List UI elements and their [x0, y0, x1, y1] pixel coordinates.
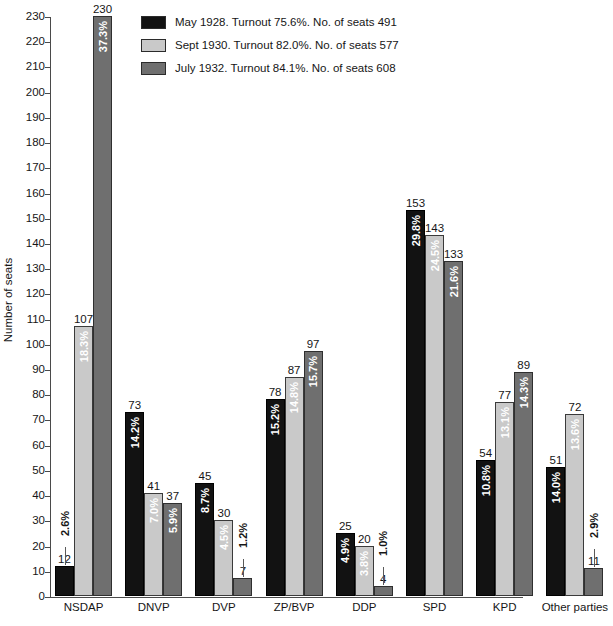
bar-value-label: 51 [549, 454, 562, 466]
y-axis-tick [45, 345, 50, 346]
bar-percent-label: 7.0% [148, 498, 159, 523]
bar[interactable]: 7713.1% [495, 402, 514, 596]
bar[interactable]: 71.2% [233, 578, 252, 596]
y-axis-tick-label: 230 [3, 11, 45, 23]
bar-group: 15329.8%14324.5%13321.6% [406, 16, 463, 597]
y-axis-tick-label: 180 [3, 137, 45, 149]
y-axis-tick [45, 496, 50, 497]
bar[interactable]: 10718.3% [74, 326, 93, 596]
y-axis-tick [45, 118, 50, 119]
bar-percent-label: 15.7% [308, 356, 319, 387]
y-axis-tick-labels: 0102030405060708090100110120130140150160… [1, 17, 45, 598]
bar-value-label: 20 [358, 533, 371, 545]
leader-line [65, 547, 66, 565]
y-axis-tick [45, 219, 50, 220]
bar-percent-label: 24.5% [429, 240, 440, 271]
bar[interactable]: 7314.2% [125, 412, 144, 596]
bar[interactable]: 375.9% [163, 503, 182, 596]
bar-percent-label: 14.2% [129, 417, 140, 448]
y-axis-tick-label: 20 [3, 541, 45, 553]
bar-value-label: 25 [339, 520, 352, 532]
y-axis-tick [45, 572, 50, 573]
x-axis-line [50, 597, 523, 598]
y-axis-tick-label: 30 [3, 515, 45, 527]
bar-value-label: 153 [406, 197, 425, 209]
bar-percent-label: 10.8% [480, 465, 491, 496]
leader-line [594, 549, 595, 567]
bar-value-label: 97 [307, 338, 320, 350]
y-axis-tick-label: 130 [3, 263, 45, 275]
bar-percent-label: 15.2% [270, 404, 281, 435]
bar-percent-label: 5.9% [167, 508, 178, 533]
bar-percent-label: 3.8% [359, 551, 370, 576]
bar-percent-label: 21.6% [448, 266, 459, 297]
y-axis-tick [45, 294, 50, 295]
bar-value-label: 133 [444, 248, 463, 260]
bar[interactable]: 13321.6% [444, 261, 463, 596]
bar[interactable]: 8714.8% [285, 377, 304, 596]
bar[interactable]: 304.5% [214, 520, 233, 596]
bar[interactable]: 7213.6% [565, 414, 584, 596]
bar-value-label: 72 [568, 401, 581, 413]
bar-value-label: 45 [198, 470, 211, 482]
y-axis-tick [45, 168, 50, 169]
y-axis-tick [45, 521, 50, 522]
bar-group: 7314.2%417.0%375.9% [125, 16, 182, 597]
bar-percent-label: 2.6% [59, 511, 70, 536]
bar-value-label: 37 [166, 490, 179, 502]
y-axis-tick-label: 150 [3, 213, 45, 225]
bar-percent-label: 4.9% [340, 538, 351, 563]
bar[interactable]: 41.0% [374, 586, 393, 596]
y-axis-tick-label: 220 [3, 36, 45, 48]
bar-percent-label: 18.3% [78, 331, 89, 362]
bar-percent-label: 8.7% [199, 488, 210, 513]
x-axis-tick-label: Other parties [526, 601, 613, 614]
bar-percent-label: 1.0% [378, 531, 389, 556]
y-axis-tick-label: 110 [3, 314, 45, 326]
plot-area: 0102030405060708090100110120130140150160… [50, 17, 523, 597]
bar[interactable]: 203.8% [355, 546, 374, 596]
bar-percent-label: 14.8% [289, 382, 300, 413]
bar[interactable]: 14324.5% [425, 235, 444, 596]
bar[interactable]: 122.6% [55, 566, 74, 596]
y-axis-tick-label: 140 [3, 238, 45, 250]
bar[interactable]: 7815.2% [266, 399, 285, 596]
bar-percent-label: 2.9% [588, 513, 599, 538]
bar[interactable]: 5114.0% [546, 467, 565, 596]
bar-group: 5410.8%7713.1%8914.3% [476, 16, 533, 597]
bar[interactable]: 417.0% [144, 493, 163, 596]
bar-value-label: 143 [425, 222, 444, 234]
bar[interactable]: 112.9% [584, 568, 603, 596]
y-axis-tick-label: 90 [3, 364, 45, 376]
bar[interactable]: 5410.8% [476, 460, 495, 596]
y-axis-tick [45, 67, 50, 68]
bar-group: 122.6%10718.3%23037.3% [55, 16, 112, 597]
y-axis-tick [45, 446, 50, 447]
y-axis-tick-label: 170 [3, 162, 45, 174]
y-axis-tick-label: 60 [3, 440, 45, 452]
leader-line [243, 559, 244, 577]
bar[interactable]: 458.7% [195, 483, 214, 596]
bar[interactable]: 9715.7% [304, 351, 323, 596]
bar-percent-label: 13.1% [499, 407, 510, 438]
bar-value-label: 30 [217, 507, 230, 519]
bar[interactable]: 254.9% [336, 533, 355, 596]
bar[interactable]: 23037.3% [93, 16, 112, 596]
y-axis-tick [45, 194, 50, 195]
bar[interactable]: 8914.3% [514, 372, 533, 596]
bar-value-label: 77 [498, 389, 511, 401]
y-axis-line [50, 17, 51, 598]
bar[interactable]: 15329.8% [406, 210, 425, 596]
bar-percent-label: 14.3% [518, 377, 529, 408]
bar-percent-label: 29.8% [410, 215, 421, 246]
bar-value-label: 78 [269, 386, 282, 398]
y-axis-tick [45, 320, 50, 321]
y-axis-tick-label: 200 [3, 87, 45, 99]
bar-value-label: 73 [128, 399, 141, 411]
leader-line [383, 567, 384, 585]
bar-value-label: 107 [74, 313, 93, 325]
y-axis-tick [45, 143, 50, 144]
y-axis-tick [45, 547, 50, 548]
y-axis-tick-label: 40 [3, 490, 45, 502]
bar-percent-label: 13.6% [569, 419, 580, 450]
